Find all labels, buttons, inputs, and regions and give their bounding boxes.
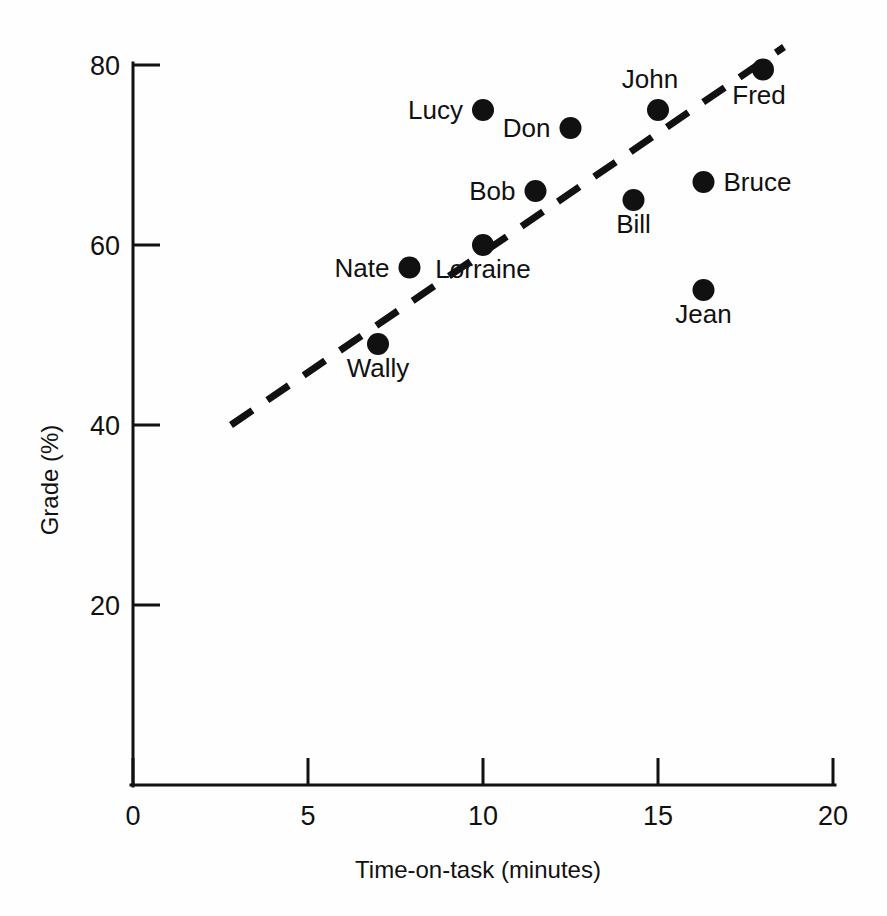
x-axis-title: Time-on-task (minutes) [355,856,601,883]
data-point-marker [693,171,715,193]
data-point-label: Jean [675,299,731,329]
y-tick-label-40: 40 [90,411,120,441]
data-point: John [622,64,678,121]
y-tick-label-60: 60 [90,231,120,261]
y-tick-label-80: 80 [90,51,120,81]
chart-canvas: 80 60 40 20 0 5 10 15 20 Time-on-task (m… [0,0,887,916]
data-point: Bruce [693,167,792,197]
data-point: Fred [732,59,785,110]
data-point: Jean [675,279,731,329]
y-tick-label-20: 20 [90,591,120,621]
data-point-marker [647,99,669,121]
data-point-marker [367,333,389,355]
y-axis: 80 60 40 20 [90,51,160,786]
data-point-marker [560,117,582,139]
x-tick-label-0: 0 [125,801,140,831]
x-axis: 0 5 10 15 20 [125,758,848,831]
data-point-label: Bill [616,209,651,239]
data-point-marker [693,279,715,301]
data-point: Nate [335,253,421,283]
data-point: Lucy [408,95,494,125]
data-point-label: Bob [469,176,515,206]
data-point-marker [623,189,645,211]
data-point: Don [503,113,582,143]
data-point-marker [752,59,774,81]
y-axis-title: Grade (%) [36,425,63,536]
data-points-layer: WallyNateLucyLorraineBobDonBillJohnBruce… [335,59,792,384]
data-point-marker [472,99,494,121]
x-tick-label-10: 10 [468,801,498,831]
data-point: Lorraine [435,234,530,284]
data-point-label: Wally [347,353,410,383]
scatter-chart: 80 60 40 20 0 5 10 15 20 Time-on-task (m… [0,0,887,916]
x-tick-label-15: 15 [643,801,673,831]
data-point-label: Lorraine [435,254,530,284]
data-point-label: Lucy [408,95,463,125]
data-point-label: Bruce [724,167,792,197]
x-tick-label-20: 20 [818,801,848,831]
data-point-label: Fred [732,80,785,110]
x-tick-label-5: 5 [300,801,315,831]
data-point-marker [472,234,494,256]
data-point-label: Nate [335,253,390,283]
data-point-marker [399,257,421,279]
data-point: Bob [469,176,546,206]
data-point-label: Don [503,113,551,143]
trend-line [231,47,784,425]
data-point-label: John [622,64,678,94]
data-point: Bill [616,189,651,239]
data-point-marker [525,180,547,202]
